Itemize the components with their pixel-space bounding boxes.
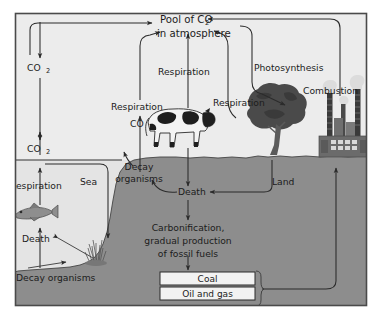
oil-and-gas-label: Oil and gas <box>182 289 233 299</box>
respiration-left-label: Respiration <box>111 101 163 112</box>
co2-upper-text: CO <box>27 62 41 73</box>
co2-lower-subscript: 2 <box>46 148 50 156</box>
land-label: Land <box>272 176 294 187</box>
death-sea-label: Death <box>22 233 50 244</box>
co2-lower-text: CO <box>27 143 41 154</box>
combustion-label: Combustion <box>303 85 358 96</box>
decay-organisms-land-line2: organisms <box>115 173 163 184</box>
photosynthesis-label: Photosynthesis <box>254 62 324 73</box>
respiration-center-label: Respiration <box>158 66 210 77</box>
co2-mid-subscript: 2 <box>149 123 153 131</box>
carbonification-line1: Carbonification, <box>152 222 225 233</box>
death-land-label: Death <box>178 186 206 197</box>
co2-upper-subscript: 2 <box>46 67 50 75</box>
oil-and-gas-box: Oil and gas <box>160 287 255 300</box>
coal-box: Coal <box>160 272 255 285</box>
respiration-right-label: Respiration <box>213 97 265 108</box>
co2-mid-text: CO <box>130 118 144 129</box>
decay-organisms-sea-label: Decay organisms <box>16 272 96 283</box>
carbon-cycle-diagram: Coal Oil and gas Pool of CO 2 in atmosph… <box>0 0 381 327</box>
sea-label: Sea <box>80 176 97 187</box>
respiration-sea-label: Respiration <box>10 180 62 191</box>
pool-title-line2: in atmosphere <box>157 28 231 39</box>
carbonification-line3: of fossil fuels <box>158 248 218 259</box>
coal-label: Coal <box>198 274 218 284</box>
carbonification-line2: gradual production <box>144 235 232 246</box>
decay-organisms-land-line1: Decay <box>125 161 154 172</box>
pool-title-sub1: 2 <box>205 19 209 27</box>
